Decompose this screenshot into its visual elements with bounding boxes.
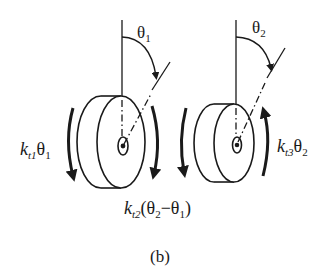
- torque-kt3-label: kt3θ2: [277, 136, 308, 158]
- disk-2-back-face: [194, 104, 214, 182]
- disk-2: [194, 104, 254, 182]
- disk-1: [77, 96, 145, 188]
- torque-kt1-label: kt1θ1: [20, 139, 51, 161]
- figure-caption: (b): [150, 247, 170, 266]
- theta-2-label: θ2: [252, 18, 266, 39]
- disk-1-center-dot: [121, 144, 124, 147]
- theta-1-arc-arrow: [122, 37, 156, 76]
- theta-2-arc-arrow: [236, 37, 271, 68]
- theta-1-label: θ1: [137, 23, 151, 44]
- disk-2-angle-line: [238, 48, 285, 142]
- disk-2-front-face: [214, 104, 254, 182]
- disk-2-center-dot: [236, 144, 239, 147]
- torque-kt3-arrow: [263, 112, 268, 176]
- torque-kt2-reaction-arrow: [181, 108, 186, 172]
- torque-kt2-arrow: [152, 106, 158, 174]
- torque-kt2-label: kt2(θ2−θ1): [124, 198, 191, 220]
- torsional-two-disk-diagram: θ1 kt1θ1 kt2(θ2−θ1) θ2 kt3θ2: [0, 0, 336, 277]
- disk-1-front-face: [97, 96, 145, 188]
- torque-kt1-arrow: [69, 108, 74, 176]
